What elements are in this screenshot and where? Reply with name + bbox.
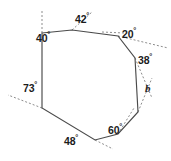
angle-label-60: 60° <box>108 123 122 135</box>
octagon-outline <box>42 30 138 140</box>
degree-symbol: ° <box>149 52 152 61</box>
angle-label-b: b <box>145 83 151 94</box>
angle-label-20: 20° <box>122 27 136 39</box>
extension-ray-48 <box>95 140 113 149</box>
degree-symbol: ° <box>86 11 89 20</box>
geometry-figure: 40° 42° 20° 38° 60° 48° 73° b <box>0 0 171 161</box>
angle-label-73: 73° <box>23 81 37 93</box>
degree-symbol: ° <box>75 133 78 142</box>
angle-label-48: 48° <box>64 134 78 146</box>
angle-label-42: 42° <box>75 12 89 24</box>
degree-symbol: ° <box>119 122 122 131</box>
extension-ray-73 <box>8 95 42 108</box>
degree-symbol: ° <box>47 30 50 39</box>
degree-symbol: ° <box>133 26 136 35</box>
extension-ray-42-horizontal <box>102 32 124 33</box>
angle-label-40: 40° <box>36 31 50 43</box>
degree-symbol: ° <box>34 80 37 89</box>
angle-label-38: 38° <box>138 53 152 65</box>
